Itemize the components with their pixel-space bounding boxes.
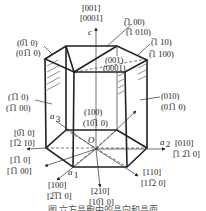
- axis-a1-label: a: [68, 167, 73, 177]
- dir-100-bravais: [2̅1̅1 0]: [47, 191, 72, 201]
- neg-a2-axis: [27, 148, 46, 149]
- dir-0bar10-miller: [0̅1 0]: [14, 128, 35, 138]
- plane-bar100-miller: (̅1 00): [124, 17, 145, 27]
- plane-010-miller: (010): [161, 91, 180, 101]
- axis-a2-label: a: [160, 137, 165, 147]
- dir-1bar10-bravais: [1̅1 00]: [7, 166, 32, 176]
- c-direction-miller: [001]: [82, 3, 101, 13]
- c-direction-bravais: [0001]: [80, 13, 103, 23]
- plane-0bar10-miller: (0̅1 0): [17, 38, 38, 48]
- axis-a3-subscript: 3: [56, 114, 60, 124]
- plane-1bar10-miller: (1̅1 0): [8, 92, 28, 102]
- plane-100-miller: (100): [84, 107, 103, 117]
- axis-a2-subscript: 2: [166, 139, 170, 149]
- figure-caption: 图 六方晶胞中的晶向和晶面: [0, 203, 206, 211]
- plane-bar110-bravais: (̅1 100): [149, 49, 174, 59]
- dir-1bar10: [45, 149, 96, 166]
- axis-c-label: c: [88, 27, 92, 37]
- plane-0001-bravais: (0001): [103, 63, 126, 73]
- dir-1bar10-miller: [1̅1 0]: [10, 155, 30, 165]
- origin-label: O: [88, 135, 95, 145]
- dir-110-miller: [110]: [143, 167, 161, 177]
- plane-bar110-miller: (̅1 10): [151, 37, 172, 47]
- dir-0bar10-bravais: [1̅2 10]: [10, 138, 35, 148]
- face-hatching: [47, 60, 146, 94]
- dir-210: [96, 149, 100, 187]
- plane-100-bravais: (10̅1 0): [83, 118, 108, 128]
- dir-010-miller: [010]: [175, 138, 194, 148]
- axis-a1-subscript: 1: [74, 170, 78, 180]
- hexagonal-prism-diagram: [001] [0001] c (̅1 00) (̅1 010) (̅1 10) …: [0, 0, 206, 211]
- plane-010-bravais: (01̅1 0): [161, 102, 186, 112]
- dir-010-bravais: [̅1 2̅1 0]: [173, 149, 200, 159]
- plane-1bar10-bravais: (1̅1 00): [6, 103, 31, 113]
- dir-210-miller: [210]: [91, 186, 110, 196]
- dir-110-bravais: [11̅2 0]: [141, 178, 166, 188]
- dir-100-miller: [100]: [48, 180, 67, 190]
- plane-0bar10-bravais: (01̅1 0): [16, 48, 41, 58]
- plane-bar100-bravais: (̅1 010): [126, 27, 151, 37]
- axis-a3-label: a: [50, 111, 55, 121]
